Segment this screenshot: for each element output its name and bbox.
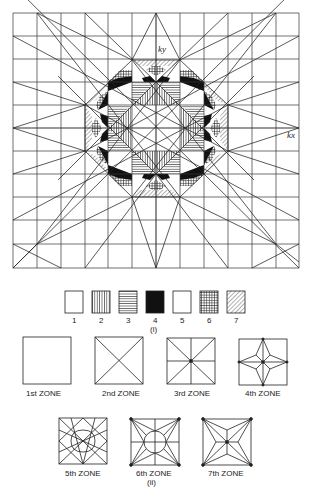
zone-4-left-b bbox=[100, 128, 108, 142]
zone-label-5: 5th ZONE bbox=[65, 469, 101, 478]
legend-swatch-5 bbox=[173, 291, 191, 313]
legend-swatch-4 bbox=[146, 291, 164, 313]
legend-swatch-6 bbox=[200, 291, 218, 313]
zone-1-shape bbox=[23, 337, 71, 384]
legend-caption: (i) bbox=[150, 325, 157, 334]
zone-label-6: 6th ZONE bbox=[136, 469, 172, 478]
legend bbox=[65, 291, 245, 313]
zone-label-1: 1st ZONE bbox=[26, 389, 61, 398]
kx-label: kx bbox=[287, 130, 295, 140]
legend-swatch-2 bbox=[92, 291, 110, 313]
legend-label-3: 3 bbox=[126, 316, 131, 325]
zone-4-shape bbox=[238, 338, 288, 386]
legend-label-4: 4 bbox=[153, 316, 158, 325]
ky-label: ky bbox=[158, 44, 166, 54]
zone-labels: 1st ZONE 2nd ZONE 3rd ZONE 4th ZONE 5th … bbox=[26, 389, 281, 487]
legend-label-7: 7 bbox=[234, 316, 239, 325]
zones-caption: (ii) bbox=[147, 478, 156, 487]
legend-labels: 1 2 3 4 5 6 7 (i) bbox=[72, 316, 239, 334]
zone-label-3: 3rd ZONE bbox=[174, 389, 210, 398]
zone-4-left-t bbox=[100, 114, 108, 128]
legend-swatch-3 bbox=[119, 291, 137, 313]
legend-label-2: 2 bbox=[99, 316, 104, 325]
zone-label-4: 4th ZONE bbox=[245, 389, 281, 398]
main-diagram: ky kx bbox=[13, 0, 299, 268]
zone-4-top-l bbox=[142, 76, 156, 82]
zone-2-shape bbox=[95, 337, 143, 384]
legend-swatch-7 bbox=[227, 291, 245, 313]
legend-label-5: 5 bbox=[180, 316, 185, 325]
figure-canvas: ky kx 1 2 3 4 5 6 7 (i) bbox=[0, 0, 309, 493]
zone-6-shape bbox=[130, 418, 181, 467]
zone-4-top-r bbox=[156, 76, 170, 82]
zone-shapes bbox=[23, 337, 288, 466]
zone-7-shape bbox=[202, 418, 253, 467]
lattice-grid bbox=[13, 13, 299, 268]
zone-5-shape bbox=[59, 418, 107, 464]
legend-label-6: 6 bbox=[207, 316, 212, 325]
legend-label-1: 1 bbox=[72, 316, 77, 325]
zone-label-7: 7th ZONE bbox=[208, 469, 244, 478]
zone-label-2: 2nd ZONE bbox=[102, 389, 140, 398]
legend-swatch-1 bbox=[65, 291, 83, 313]
zone-3-shape bbox=[167, 338, 215, 384]
